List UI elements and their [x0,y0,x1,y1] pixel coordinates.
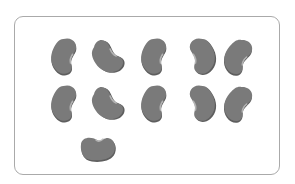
bean-icon [217,34,259,79]
bean-icon [136,35,172,78]
bean-icon [217,81,259,126]
bean-icon [185,34,221,77]
bean-icon [185,81,221,124]
bean-icon [81,138,116,162]
bean-icon [86,82,128,127]
bean-icon [86,35,128,80]
beans-group [0,0,295,184]
bean-icon [46,35,82,78]
bean-icon [136,82,172,125]
bean-icon [46,82,82,125]
